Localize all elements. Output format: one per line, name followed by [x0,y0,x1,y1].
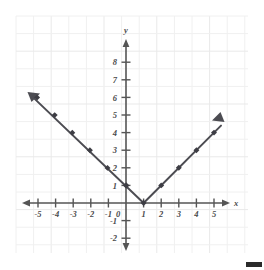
y-tick-label: 7 [113,75,118,85]
y-tick-label: 5 [113,110,118,120]
data-point [69,130,75,136]
y-axis-name-label: y [123,25,128,35]
x-tick-label: 1 [141,209,145,219]
y-tick-label: 4 [112,128,117,138]
origin-label: 0 [116,209,121,219]
y-tick-label: 6 [113,93,118,103]
x-axis-left-arrow-icon [22,200,30,207]
y-tick-label: -2 [110,233,118,243]
x-tick-label: 2 [158,209,164,219]
y-axis-down-arrow-icon [123,243,130,251]
x-axis-right-arrow-icon [222,200,230,207]
corner-artifact [246,262,262,267]
x-tick-label: 4 [193,209,198,219]
y-tick-label: 1 [113,181,117,191]
x-tick-label: -2 [87,209,95,219]
y-axis-up-arrow-icon [123,39,130,47]
x-tick-label: -4 [52,209,59,219]
x-axis-name-label: x [233,198,239,208]
y-tick-label: 3 [112,145,118,155]
x-tick-label: -3 [70,209,78,219]
y-tick-label: 8 [113,57,118,67]
curve-right-arrow-icon [212,112,225,122]
coordinate-plane: -5 -4 -3 -2 -1 1 2 3 4 5 1 2 3 4 5 6 7 8… [0,0,264,270]
x-tick-label: -5 [34,209,42,219]
y-axis [122,39,131,251]
y-tick-label: 2 [112,163,118,173]
graph-figure: -5 -4 -3 -2 -1 1 2 3 4 5 1 2 3 4 5 6 7 8… [0,0,264,270]
x-tick-label: 5 [212,209,217,219]
x-tick-label: 3 [176,209,182,219]
